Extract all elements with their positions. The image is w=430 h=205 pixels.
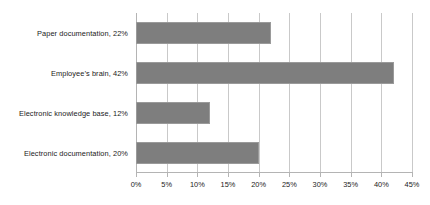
x-tick-mark bbox=[167, 173, 168, 177]
x-tick-mark bbox=[197, 173, 198, 177]
x-tick-label: 5% bbox=[161, 180, 172, 189]
x-tick-label: 15% bbox=[221, 180, 236, 189]
x-axis-line bbox=[136, 172, 413, 173]
x-tick-mark bbox=[351, 173, 352, 177]
x-tick-mark bbox=[320, 173, 321, 177]
x-tick-mark bbox=[289, 173, 290, 177]
x-tick-mark bbox=[136, 173, 137, 177]
category-label: Electronic knowledge base, 12% bbox=[0, 109, 128, 118]
bar bbox=[136, 22, 271, 44]
x-tick-mark bbox=[259, 173, 260, 177]
x-tick-label: 0% bbox=[131, 180, 142, 189]
plot-area bbox=[136, 13, 412, 173]
x-tick-label: 45% bbox=[405, 180, 420, 189]
x-tick-label: 30% bbox=[313, 180, 328, 189]
bar bbox=[136, 142, 259, 164]
gridline-30pct bbox=[320, 13, 321, 173]
x-tick-mark bbox=[412, 173, 413, 177]
gridline-40pct bbox=[381, 13, 382, 173]
x-tick-mark bbox=[228, 173, 229, 177]
bar bbox=[136, 102, 210, 124]
gridline-45pct bbox=[412, 13, 413, 173]
x-tick-label: 35% bbox=[343, 180, 358, 189]
x-tick-label: 40% bbox=[374, 180, 389, 189]
x-tick-label: 20% bbox=[251, 180, 266, 189]
category-axis-labels: Paper documentation, 22%Employee’s brain… bbox=[0, 13, 132, 173]
bar bbox=[136, 62, 394, 84]
gridline-25pct bbox=[289, 13, 290, 173]
x-tick-label: 25% bbox=[282, 180, 297, 189]
gridline-35pct bbox=[351, 13, 352, 173]
category-label: Employee’s brain, 42% bbox=[0, 69, 128, 78]
category-label: Paper documentation, 22% bbox=[0, 29, 128, 38]
x-tick-label: 10% bbox=[190, 180, 205, 189]
x-tick-mark bbox=[381, 173, 382, 177]
bar-chart: Paper documentation, 22%Employee’s brain… bbox=[0, 0, 430, 205]
category-label: Electronic documentation, 20% bbox=[0, 149, 128, 158]
